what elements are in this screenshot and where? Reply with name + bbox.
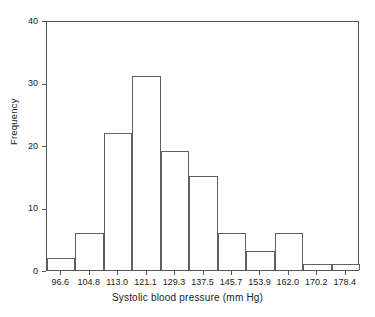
x-axis-tick-label: 129.3 <box>163 277 186 287</box>
x-axis-tick-label: 104.8 <box>77 277 100 287</box>
y-axis-tick-label: 10 <box>28 204 38 213</box>
x-axis-tick <box>60 271 61 275</box>
histogram-bar <box>218 233 246 271</box>
x-axis-tick-label: 137.5 <box>191 277 214 287</box>
x-axis-tick-label: 170.2 <box>305 277 328 287</box>
x-axis-tick-label: 121.1 <box>134 277 157 287</box>
histogram-bar <box>104 133 132 271</box>
plot-area <box>46 21 359 271</box>
bar-series <box>47 22 358 270</box>
x-axis-tick <box>259 271 260 275</box>
histogram-bar <box>246 251 274 270</box>
x-axis-tick-label: 145.7 <box>220 277 243 287</box>
x-axis-tick <box>89 271 90 275</box>
histogram-bar <box>189 176 217 270</box>
x-axis-tick <box>174 271 175 275</box>
y-axis-tick-label: 30 <box>28 79 38 88</box>
histogram-bar <box>161 151 189 270</box>
x-axis-tick <box>345 271 346 275</box>
x-axis-tick <box>203 271 204 275</box>
x-axis-tick <box>288 271 289 275</box>
histogram-bar <box>303 264 331 270</box>
histogram-bar <box>275 233 303 271</box>
x-axis-tick <box>231 271 232 275</box>
x-axis-tick-label: 113.0 <box>106 277 128 287</box>
x-axis-tick <box>117 271 118 275</box>
y-axis-tick-label: 0 <box>33 267 38 276</box>
y-axis-tick-label: 20 <box>28 142 38 151</box>
histogram-bar <box>132 76 160 270</box>
x-axis-tick-label: 162.0 <box>277 277 300 287</box>
histogram-bar <box>332 264 360 270</box>
x-axis-tick-label: 178.4 <box>334 277 357 287</box>
y-axis-tick <box>42 271 46 272</box>
y-axis-tick-label: 40 <box>28 17 38 26</box>
histogram-bar <box>47 258 75 271</box>
x-axis-title: Systolic blood pressure (mm Hg) <box>0 292 375 303</box>
histogram-figure: Frequency 010203040 96.6104.8113.0121.11… <box>0 0 375 317</box>
x-axis-tick-label: 96.6 <box>51 277 69 287</box>
y-axis-title: Frequency <box>8 98 19 145</box>
x-axis-tick <box>146 271 147 275</box>
x-axis-tick-label: 153.9 <box>248 277 271 287</box>
x-axis-tick <box>316 271 317 275</box>
histogram-bar <box>75 233 103 271</box>
